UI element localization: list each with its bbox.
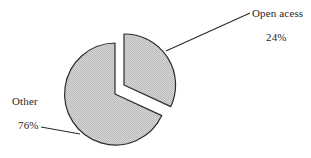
slice-value-other: 76% (18, 120, 39, 131)
pie-chart-figure: Open acess 24% Other 76% (0, 0, 311, 158)
pie-slice-open-access (124, 34, 176, 107)
slice-value-open-access: 24% (266, 32, 287, 43)
leader-line-other (41, 127, 80, 134)
pie-chart-canvas (0, 0, 311, 158)
slice-label-other: Other (12, 96, 38, 107)
slice-label-open-access: Open acess (252, 8, 303, 19)
leader-line-open-access (166, 13, 250, 51)
